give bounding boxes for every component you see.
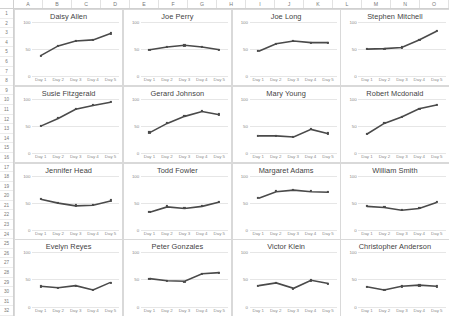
series-plot [32, 99, 119, 153]
column-header-E[interactable]: E [130, 0, 159, 8]
x-axis-tick: Day 4 [193, 153, 210, 161]
row-header-1[interactable]: 1 [0, 9, 13, 19]
series-plot [141, 252, 228, 306]
column-header-K[interactable]: K [304, 0, 333, 8]
data-point-marker [275, 282, 277, 284]
x-axis-tick: Day 3 [284, 153, 301, 161]
chart-title: Victor Klein [236, 242, 337, 252]
row-header-4[interactable]: 4 [0, 38, 13, 48]
x-axis: Day 1Day 2Day 3Day 4Day 5 [358, 307, 445, 315]
column-header-A[interactable]: A [14, 0, 43, 8]
charts-layer: Daisy Allen050100Day 1Day 2Day 3Day 4Day… [14, 9, 449, 316]
row-header-28[interactable]: 28 [0, 268, 13, 278]
data-point-marker [436, 201, 438, 203]
column-header-J[interactable]: J [275, 0, 304, 8]
x-axis-tick: Day 1 [32, 153, 49, 161]
data-point-marker [292, 288, 294, 290]
row-header-6[interactable]: 6 [0, 57, 13, 67]
chart-title: Robert Mcdonald [344, 89, 445, 99]
row-header-11[interactable]: 11 [0, 105, 13, 115]
chart-margaret-adams[interactable]: Margaret Adams050100Day 1Day 2Day 3Day 4… [232, 163, 341, 240]
gridline [358, 153, 445, 154]
row-header-32[interactable]: 32 [0, 306, 13, 316]
series-plot [358, 22, 445, 76]
chart-daisy-allen[interactable]: Daisy Allen050100Day 1Day 2Day 3Day 4Day… [14, 9, 123, 86]
x-axis: Day 1Day 2Day 3Day 4Day 5 [358, 230, 445, 238]
row-header-30[interactable]: 30 [0, 287, 13, 297]
column-header-F[interactable]: F [159, 0, 188, 8]
chart-christopher-anderson[interactable]: Christopher Anderson050100Day 1Day 2Day … [340, 239, 449, 316]
row-header-24[interactable]: 24 [0, 230, 13, 240]
chart-title: Daisy Allen [18, 12, 119, 22]
chart-evelyn-reyes[interactable]: Evelyn Reyes050100Day 1Day 2Day 3Day 4Da… [14, 239, 123, 316]
row-header-23[interactable]: 23 [0, 220, 13, 230]
series-line [258, 41, 328, 51]
chart-gerard-johnson[interactable]: Gerard Johnson050100Day 1Day 2Day 3Day 4… [123, 86, 232, 163]
row-header-13[interactable]: 13 [0, 124, 13, 134]
chart-stephen-mitchell[interactable]: Stephen Mitchell050100Day 1Day 2Day 3Day… [340, 9, 449, 86]
row-header-8[interactable]: 8 [0, 76, 13, 86]
grid-body[interactable]: Daisy Allen050100Day 1Day 2Day 3Day 4Day… [14, 9, 449, 316]
row-header-2[interactable]: 2 [0, 19, 13, 29]
gridline [250, 76, 337, 77]
row-header-3[interactable]: 3 [0, 28, 13, 38]
column-header-N[interactable]: N [391, 0, 420, 8]
column-header-D[interactable]: D [101, 0, 130, 8]
column-header-I[interactable]: I [246, 0, 275, 8]
row-header-20[interactable]: 20 [0, 191, 13, 201]
row-header-26[interactable]: 26 [0, 249, 13, 259]
select-all-corner[interactable] [0, 0, 14, 9]
series-line [41, 102, 111, 126]
row-header-31[interactable]: 31 [0, 297, 13, 307]
data-point-marker [183, 207, 185, 209]
row-header-5[interactable]: 5 [0, 47, 13, 57]
chart-title: Mary Young [236, 89, 337, 99]
data-point-marker [40, 198, 42, 200]
column-header-O[interactable]: O [420, 0, 449, 8]
chart-jennifer-head[interactable]: Jennifer Head050100Day 1Day 2Day 3Day 4D… [14, 163, 123, 240]
chart-william-smith[interactable]: William Smith050100Day 1Day 2Day 3Day 4D… [340, 163, 449, 240]
data-point-marker [418, 284, 420, 286]
chart-robert-mcdonald[interactable]: Robert Mcdonald050100Day 1Day 2Day 3Day … [340, 86, 449, 163]
chart-todd-fowler[interactable]: Todd Fowler050100Day 1Day 2Day 3Day 4Day… [123, 163, 232, 240]
data-point-marker [383, 47, 385, 49]
x-axis-tick: Day 5 [211, 230, 228, 238]
chart-susie-fitzgerald[interactable]: Susie Fitzgerald050100Day 1Day 2Day 3Day… [14, 86, 123, 163]
row-header-25[interactable]: 25 [0, 239, 13, 249]
chart-joe-long[interactable]: Joe Long050100Day 1Day 2Day 3Day 4Day 5 [232, 9, 341, 86]
row-header-15[interactable]: 15 [0, 143, 13, 153]
x-axis: Day 1Day 2Day 3Day 4Day 5 [32, 307, 119, 315]
column-header-B[interactable]: B [43, 0, 72, 8]
column-header-H[interactable]: H [217, 0, 246, 8]
row-header-27[interactable]: 27 [0, 258, 13, 268]
row-header-21[interactable]: 21 [0, 201, 13, 211]
row-header-29[interactable]: 29 [0, 278, 13, 288]
column-header-G[interactable]: G [188, 0, 217, 8]
row-header-17[interactable]: 17 [0, 163, 13, 173]
row-header-12[interactable]: 12 [0, 115, 13, 125]
data-point-marker [401, 209, 403, 211]
data-point-marker [436, 104, 438, 106]
data-point-marker [275, 190, 277, 192]
y-axis-tick: 100 [241, 173, 248, 178]
chart-mary-young[interactable]: Mary Young050100Day 1Day 2Day 3Day 4Day … [232, 86, 341, 163]
x-axis-tick: Day 3 [284, 230, 301, 238]
column-header-L[interactable]: L [333, 0, 362, 8]
row-header-9[interactable]: 9 [0, 86, 13, 96]
chart-victor-klein[interactable]: Victor Klein050100Day 1Day 2Day 3Day 4Da… [232, 239, 341, 316]
row-header-22[interactable]: 22 [0, 210, 13, 220]
chart-joe-perry[interactable]: Joe Perry050100Day 1Day 2Day 3Day 4Day 5 [123, 9, 232, 86]
x-axis-tick: Day 2 [267, 230, 284, 238]
chart-peter-gonzales[interactable]: Peter Gonzales050100Day 1Day 2Day 3Day 4… [123, 239, 232, 316]
row-header-10[interactable]: 10 [0, 95, 13, 105]
plot-area [358, 176, 445, 230]
row-header-19[interactable]: 19 [0, 182, 13, 192]
y-axis: 050100 [127, 252, 141, 306]
row-header-16[interactable]: 16 [0, 153, 13, 163]
data-point-marker [166, 205, 168, 207]
row-header-7[interactable]: 7 [0, 67, 13, 77]
column-header-C[interactable]: C [72, 0, 101, 8]
row-header-18[interactable]: 18 [0, 172, 13, 182]
row-header-14[interactable]: 14 [0, 134, 13, 144]
column-header-M[interactable]: M [362, 0, 391, 8]
